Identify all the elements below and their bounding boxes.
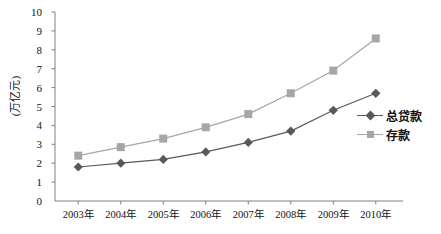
data-point-总贷款-2004年[interactable] [116, 159, 125, 168]
data-point-存款-2006年[interactable] [202, 123, 210, 131]
data-point-存款-2009年[interactable] [329, 67, 337, 75]
series-line-存款 [78, 39, 376, 156]
data-point-存款-2008年[interactable] [287, 89, 295, 97]
line-chart: (万亿元) 012345678910 2003年2004年2005年2006年2… [0, 0, 441, 234]
chart-legend: 总贷款 存款 [357, 106, 439, 144]
series-line-总贷款 [78, 93, 376, 167]
data-point-总贷款-2010年[interactable] [371, 89, 380, 98]
data-point-存款-2003年[interactable] [74, 152, 82, 160]
data-point-总贷款-2008年[interactable] [286, 127, 295, 136]
legend-swatch-deposits [357, 129, 383, 141]
data-point-总贷款-2009年[interactable] [329, 106, 338, 115]
legend-item-deposits[interactable]: 存款 [357, 125, 439, 144]
data-point-存款-2004年[interactable] [117, 143, 125, 151]
legend-swatch-loans [357, 110, 383, 122]
legend-item-loans[interactable]: 总贷款 [357, 106, 439, 125]
data-point-存款-2005年[interactable] [159, 135, 167, 143]
data-point-总贷款-2005年[interactable] [159, 155, 168, 164]
data-point-总贷款-2003年[interactable] [74, 162, 83, 171]
data-point-总贷款-2007年[interactable] [244, 138, 253, 147]
data-point-总贷款-2006年[interactable] [201, 147, 210, 156]
legend-label-loans: 总贷款 [386, 107, 422, 124]
legend-label-deposits: 存款 [386, 126, 410, 143]
data-point-存款-2007年[interactable] [244, 110, 252, 118]
data-point-存款-2010年[interactable] [372, 34, 380, 42]
